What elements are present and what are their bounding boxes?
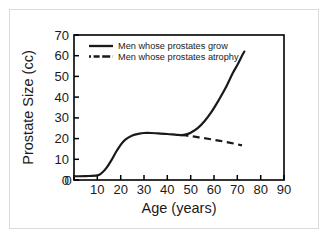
- y-tick-label: 20: [55, 131, 69, 146]
- x-tick-label: 70: [230, 182, 244, 197]
- y-tick-label: 60: [55, 48, 69, 63]
- x-tick-label: 10: [90, 182, 104, 197]
- chart-legend: Men whose prostates grow Men whose prost…: [89, 41, 239, 62]
- x-tick-label: 40: [160, 182, 174, 197]
- x-axis-tick-labels: 0 10 20 30 40 50 60 70 80 90: [64, 173, 291, 197]
- y-axis-tick-labels: 0 10 20 30 40 50 60 70: [55, 28, 69, 188]
- figure-root: 0 10 20 30 40 50 60 70 0 10 20 3: [0, 0, 330, 250]
- x-axis-title: Age (years): [142, 200, 217, 216]
- x-tick-label: 90: [277, 182, 291, 197]
- y-tick-label: 30: [55, 110, 69, 125]
- legend-label-atrophy: Men whose prostates atrophy: [118, 52, 239, 62]
- series-line-prostates-atrophy: [181, 135, 242, 145]
- y-tick-label: 10: [55, 152, 69, 167]
- y-tick-label: 50: [55, 69, 69, 84]
- x-tick-label: 50: [183, 182, 197, 197]
- y-axis-title: Prostate Size (cc): [20, 50, 36, 164]
- y-tick-label: 40: [55, 90, 69, 105]
- series-lines: [74, 52, 244, 177]
- prostate-size-vs-age-chart: 0 10 20 30 40 50 60 70 0 10 20 3: [0, 0, 330, 250]
- legend-label-grow: Men whose prostates grow: [118, 41, 228, 51]
- series-line-prostates-grow: [74, 52, 244, 177]
- y-tick-label: 70: [55, 28, 69, 43]
- x-tick-label: 80: [253, 182, 267, 197]
- x-tick-label: 30: [137, 182, 151, 197]
- x-tick-label: 0: [64, 173, 71, 188]
- x-tick-label: 20: [113, 182, 127, 197]
- x-tick-label: 60: [207, 182, 221, 197]
